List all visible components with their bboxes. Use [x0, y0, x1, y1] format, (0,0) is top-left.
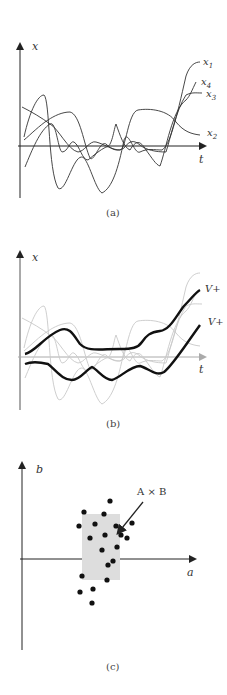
panel-b: x t V+ V+ (b) — [18, 251, 224, 429]
upper-envelope-curve — [25, 290, 200, 354]
caption-c: (c) — [106, 661, 120, 672]
panel-c: b a A × B (c) — [20, 463, 195, 672]
y-axis-label: x — [32, 40, 39, 53]
label-x3: x3 — [206, 88, 217, 102]
x-axis-label: t — [199, 153, 204, 166]
label-x1: x1 — [203, 56, 213, 70]
y-axis-label: b — [36, 463, 43, 476]
panel-a: x t x1 x4 x3 x2 (a) — [18, 40, 218, 218]
x-axis-label: a — [187, 566, 194, 579]
upper-envelope-label: V+ — [205, 283, 221, 294]
a-x-b-region — [82, 514, 120, 580]
trajectories — [22, 62, 202, 193]
y-axis-label: x — [32, 251, 39, 264]
annotation-arrow — [118, 502, 143, 533]
caption-a: (a) — [106, 207, 120, 218]
figure-canvas: x t x1 x4 x3 x2 (a) x t V — [0, 0, 227, 695]
caption-b: (b) — [106, 418, 120, 429]
faded-trajectories — [22, 273, 202, 404]
lower-envelope-label: V+ — [208, 316, 224, 327]
annotation-label: A × B — [136, 486, 166, 497]
x-axis-label: t — [199, 363, 204, 376]
label-x2: x2 — [207, 127, 218, 141]
series-x1 — [24, 62, 200, 193]
